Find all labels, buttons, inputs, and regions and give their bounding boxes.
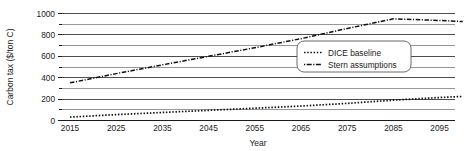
x-tick-label-2055: 2055 <box>246 123 265 133</box>
y-tick-label-0: 0 <box>50 116 55 126</box>
x-tick-label-2065: 2065 <box>292 123 311 133</box>
x-tick-label-2015: 2015 <box>61 123 80 133</box>
x-axis-title: Year <box>249 138 266 148</box>
chart-legend: DICE baseline Stern assumptions <box>297 41 411 72</box>
y-tick-labels: 1000 800 600 400 200 0 <box>37 9 56 126</box>
line-chart: 1000 800 600 400 200 0 Carbon tax ($/ton… <box>0 0 472 151</box>
x-tick-label-2075: 2075 <box>338 123 357 133</box>
x-tick-label-2035: 2035 <box>153 123 172 133</box>
chart-figure: 1000 800 600 400 200 0 Carbon tax ($/ton… <box>0 0 472 151</box>
y-tick-label-800: 800 <box>41 30 55 40</box>
y-axis-title: Carbon tax ($/ton C) <box>5 28 15 105</box>
y-tick-label-600: 600 <box>41 51 55 61</box>
x-tick-label-2085: 2085 <box>384 123 403 133</box>
y-tick-label-1000: 1000 <box>37 9 56 19</box>
y-tick-label-400: 400 <box>41 73 55 83</box>
x-tick-label-2045: 2045 <box>199 123 218 133</box>
legend-label-dice-baseline: DICE baseline <box>328 48 381 58</box>
x-tick-label-2025: 2025 <box>107 123 126 133</box>
y-tickmarks <box>58 14 62 121</box>
legend-label-stern-assumptions: Stern assumptions <box>328 60 397 70</box>
x-tick-label-2095: 2095 <box>430 123 449 133</box>
x-tick-labels: 2015 2025 2035 2045 2055 2065 2075 2085 … <box>61 123 449 133</box>
y-tick-label-200: 200 <box>41 94 55 104</box>
